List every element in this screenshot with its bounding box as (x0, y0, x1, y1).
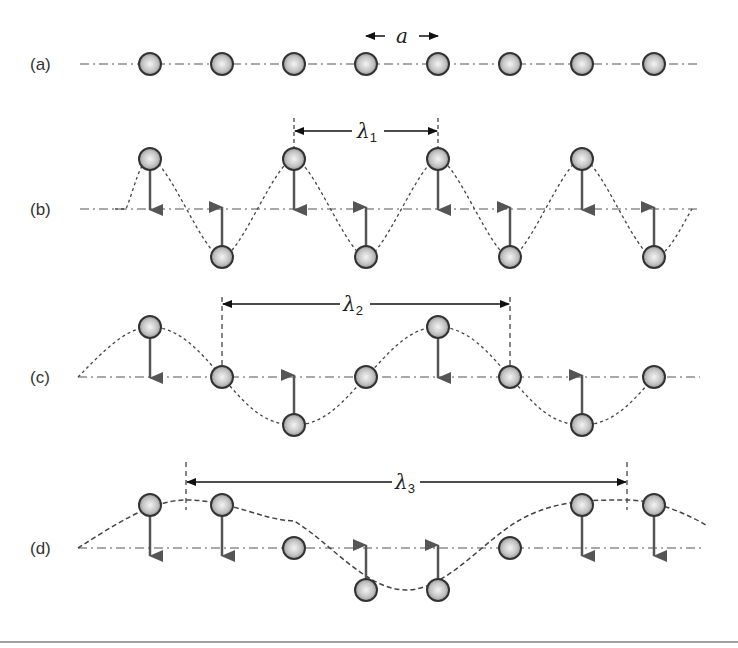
wavelength-label: λ2 (342, 292, 363, 318)
atoms-row-a (139, 53, 665, 75)
atom (139, 53, 161, 75)
atom (139, 316, 161, 338)
wavelength-lambda2: λ2 (222, 292, 510, 365)
atom (283, 537, 305, 559)
atom (355, 246, 377, 268)
atom (643, 53, 665, 75)
row-label-c: (c) (30, 368, 50, 387)
atoms-row-b (139, 148, 665, 268)
atom (571, 148, 593, 170)
row-c-mode-lambda2: (c) λ2 (30, 292, 700, 436)
row-label-a: (a) (30, 55, 51, 74)
row-b-mode-lambda1: (b) λ1 (30, 118, 700, 268)
atom (139, 494, 161, 516)
wavelength-label: λ1 (356, 119, 377, 145)
atom (643, 494, 665, 516)
atoms-row-c (139, 316, 665, 436)
wavelength-lambda1: λ1 (294, 118, 438, 150)
atom (283, 414, 305, 436)
atom (211, 246, 233, 268)
atom (643, 246, 665, 268)
wavelength-lambda3: λ3 (186, 462, 627, 510)
atom (427, 316, 449, 338)
atom (499, 246, 521, 268)
displacement-wave (78, 500, 706, 590)
wavelength-label: λ3 (394, 470, 415, 496)
atom (427, 53, 449, 75)
atom (643, 366, 665, 388)
atom (355, 53, 377, 75)
atom (211, 53, 233, 75)
displacement-arrows-b (150, 170, 654, 246)
atom (571, 494, 593, 516)
row-label-d: (d) (30, 539, 51, 558)
atom (427, 579, 449, 601)
atom (571, 414, 593, 436)
row-d-mode-lambda3: (d) λ3 (30, 462, 706, 601)
atom (355, 366, 377, 388)
atom (283, 53, 305, 75)
spacing-a-indicator: a (366, 24, 438, 48)
displacement-wave (115, 159, 692, 257)
atom (283, 148, 305, 170)
row-a-equilibrium: (a) a (30, 24, 700, 75)
atom (427, 148, 449, 170)
atom (499, 537, 521, 559)
lattice-vibration-diagram: (a) a (b) λ1 (0, 0, 738, 648)
atom (211, 494, 233, 516)
row-label-b: (b) (30, 200, 51, 219)
lattice-spacing-label: a (396, 24, 408, 48)
atom (499, 53, 521, 75)
atom (211, 366, 233, 388)
atom (355, 579, 377, 601)
atom (571, 53, 593, 75)
atom (499, 366, 521, 388)
atom (139, 148, 161, 170)
